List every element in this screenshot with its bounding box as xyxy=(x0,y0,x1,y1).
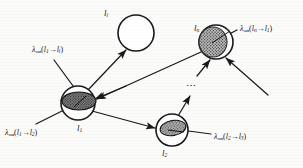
lambda-label-l2-to-l3: λout(l2→l3) xyxy=(214,133,246,142)
leader-lambda-l1-to-li xyxy=(54,60,76,90)
edge-l2-to-ln xyxy=(178,96,190,116)
node-right[interactable] xyxy=(199,25,233,59)
node-label-ln: ln xyxy=(194,24,199,34)
node-left-belief-ellipse xyxy=(62,92,96,110)
figure-canvas: ⋯ li l1 ln l2 λout(l1→li) λout(l1→l2) λo… xyxy=(0,0,303,168)
node-top-circle xyxy=(118,15,154,51)
node-bottom[interactable] xyxy=(156,114,188,146)
node-label-li: li xyxy=(104,9,108,19)
edge-l1-to-li xyxy=(88,50,126,90)
edge-external-into-l1 xyxy=(95,86,126,99)
edge-dots-to-ln xyxy=(197,60,210,76)
node-top[interactable] xyxy=(118,15,154,51)
node-left[interactable] xyxy=(61,86,96,120)
node-label-l2: l2 xyxy=(162,149,167,159)
lambda-label-ln-to-l1: λout(ln→l1) xyxy=(240,25,272,34)
lambda-label-l1-to-l2: λout(l1→l2) xyxy=(5,129,37,138)
lambda-label-l1-to-li: λout(l1→li) xyxy=(32,46,63,55)
edge-l1-to-l2 xyxy=(92,111,155,128)
edge-external-into-ln xyxy=(226,58,268,95)
ellipsis-marker: ⋯ xyxy=(186,80,197,91)
node-label-l1: l1 xyxy=(77,124,82,134)
